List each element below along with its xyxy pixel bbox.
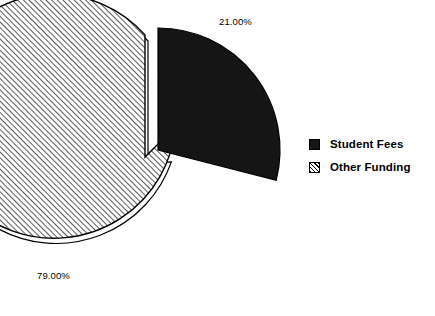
legend-swatch-solid-icon — [309, 139, 320, 150]
legend-label-other-funding: Other Funding — [330, 161, 411, 173]
slice-label-student-fees: 21.00% — [219, 16, 252, 27]
legend-item-other-funding[interactable]: Other Funding — [309, 161, 411, 173]
pie-slice-other-funding — [0, 0, 176, 238]
pie-slice-student-fees — [158, 28, 280, 180]
legend-swatch-hatched-icon — [309, 162, 320, 173]
chart-legend: Student Fees Other Funding — [309, 138, 411, 173]
legend-item-student-fees[interactable]: Student Fees — [309, 138, 411, 150]
legend-label-student-fees: Student Fees — [330, 138, 403, 150]
pie-chart: 21.00% 79.00% Student Fees Other Funding — [0, 0, 435, 316]
slice-label-other-funding: 79.00% — [37, 270, 70, 281]
